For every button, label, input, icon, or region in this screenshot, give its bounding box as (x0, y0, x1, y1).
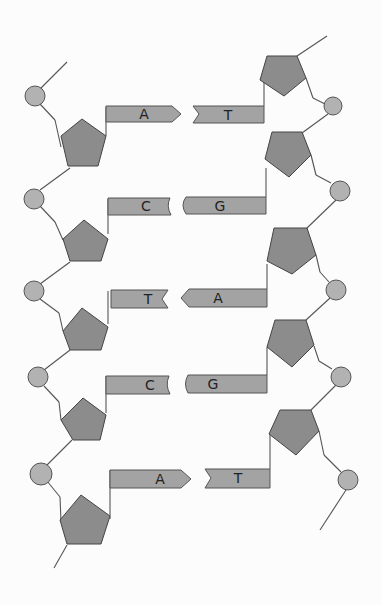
right-base-label: A (213, 290, 223, 306)
phosphate-circle (330, 181, 350, 201)
base-thymine (111, 290, 168, 308)
left-base-connectors (106, 107, 110, 519)
left-sugars (60, 119, 110, 544)
left-base-label: A (155, 471, 165, 487)
base-adenine (181, 289, 267, 307)
sugar-pentagon (260, 56, 306, 96)
sugar-pentagon (61, 398, 106, 440)
sugar-pentagon (265, 132, 311, 177)
right-phosphates (324, 97, 358, 490)
base-cytosine (106, 376, 170, 394)
left-base-label: C (141, 198, 151, 214)
right-base-label: G (215, 198, 226, 214)
left-base-label: T (143, 291, 153, 307)
right-bases (181, 106, 270, 488)
right-sugars (260, 56, 319, 455)
right-base-label: T (223, 107, 233, 123)
right-base-label: T (233, 470, 243, 486)
left-phosphates (24, 86, 52, 485)
sugar-pentagon (269, 410, 319, 455)
phosphate-circle (331, 367, 351, 387)
sugar-pentagon (60, 495, 110, 544)
left-base-label: A (139, 106, 149, 122)
phosphate-circle (24, 281, 44, 301)
dna-diagram: A T C G T A C G A T (0, 0, 382, 605)
right-base-connectors (264, 80, 270, 469)
sugar-pentagon (63, 220, 108, 261)
base-adenine (110, 470, 191, 488)
sugar-pentagon (61, 119, 106, 166)
phosphate-circle (24, 189, 44, 209)
phosphate-circle (326, 280, 346, 300)
right-base-label: G (208, 376, 219, 392)
phosphate-circle (338, 470, 358, 490)
left-base-label: C (145, 377, 155, 393)
phosphate-circle (28, 367, 48, 387)
phosphate-circle (324, 97, 342, 115)
sugar-pentagon (63, 308, 108, 350)
sugar-pentagon (267, 320, 314, 367)
phosphate-circle (30, 463, 52, 485)
base-guanine (186, 375, 268, 393)
sugar-pentagon (267, 228, 316, 274)
base-cytosine (108, 198, 171, 215)
phosphate-circle (25, 86, 45, 106)
